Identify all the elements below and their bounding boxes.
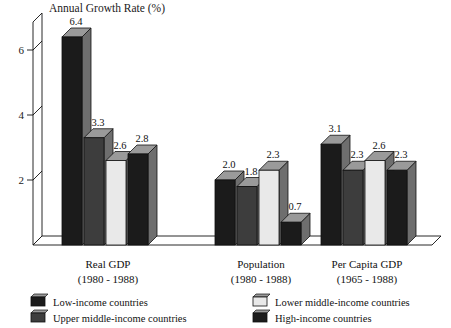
bar-value-label: 6.4 [69,16,83,27]
legend-swatch [253,297,267,306]
bar-value-label: 2.3 [394,149,407,160]
legend-item-1 [253,294,270,306]
x-axis-category-sublabel: (1980 - 1988) [231,273,292,286]
legend-label: Lower middle-income countries [275,297,410,308]
bar-value-label: 2.3 [350,149,363,160]
x-axis-category-label: Per Capita GDP [332,258,403,270]
bar-front-face [106,161,126,246]
bar-real-gdp-3 [128,145,157,245]
x-axis-category-label: Real GDP [86,258,131,270]
bar-value-label: 3.1 [328,123,341,134]
legend-label: Low-income countries [53,297,148,308]
bar-front-face [128,154,148,245]
bar-front-face [237,187,257,246]
legend-swatch [31,313,45,322]
x-axis-category-sublabel: (1980 - 1988) [78,273,139,286]
legend-swatch [31,297,45,306]
bar-value-label: 2.6 [113,140,126,151]
bar-front-face [387,170,407,245]
bar-front-face [62,37,82,245]
bar-value-label: 2.6 [372,140,385,151]
legend-swatch-bevel [31,294,48,297]
y-axis-tick-label: 2 [19,174,25,186]
legend-item-3 [253,310,270,322]
legend-swatch-bevel [31,310,48,313]
chart-axis-title: Annual Growth Rate (%) [49,2,165,15]
x-axis-category-sublabel: (1965 - 1988) [337,273,398,286]
legend-swatch-bevel [253,310,270,313]
legend-item-2 [31,310,48,322]
bar-front-face [321,144,341,245]
bar-value-label: 2.0 [222,159,235,170]
legend-label: Upper middle-income countries [53,313,187,324]
x-axis-category-label: Population [237,258,285,270]
y-axis-tick-label: 4 [19,109,25,121]
bar-front-face [259,170,279,245]
bar-front-face [365,161,385,246]
legend-item-0 [31,294,48,306]
bar-value-label: 1.8 [244,166,257,177]
legend-swatch-bevel [253,294,270,297]
bar-front-face [215,180,235,245]
bar-value-label: 0.7 [288,201,301,212]
y-axis-tick-label: 6 [19,44,25,56]
y-axis-wall [33,13,42,245]
bar-per-capita-gdp-3 [387,161,416,245]
legend-label: High-income countries [275,313,372,324]
bar-side-face [148,145,157,245]
bar-value-label: 2.3 [266,149,279,160]
growth-rate-bar-chart: 246Annual Growth Rate (%)6.43.32.62.8Rea… [0,0,451,328]
bar-front-face [281,222,301,245]
bar-front-face [84,138,104,245]
legend-swatch [253,313,267,322]
chart-canvas: 246Annual Growth Rate (%)6.43.32.62.8Rea… [0,0,451,328]
bar-value-label: 2.8 [135,133,148,144]
bar-population-3 [281,213,310,245]
bar-front-face [343,170,363,245]
bar-side-face [407,161,416,245]
bar-value-label: 3.3 [91,117,104,128]
